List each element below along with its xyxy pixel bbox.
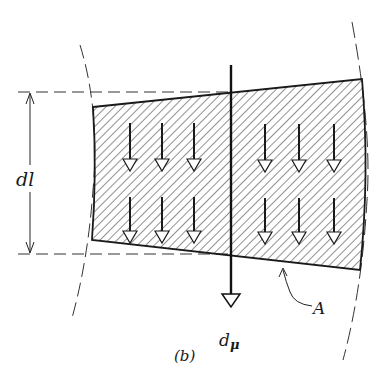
area-leader-arrow [279, 268, 312, 306]
left-dashed-arc [72, 45, 95, 318]
area-label: A [313, 300, 325, 317]
dmu-label-main: d [219, 330, 230, 350]
magnetic-slab-diagram: dl dμ A (b) [0, 0, 392, 388]
dmu-label-subscript: μ [230, 337, 240, 352]
dmu-label: dμ [219, 332, 239, 349]
diagram-canvas [0, 0, 392, 388]
dl-label: dl [16, 170, 34, 189]
figure-caption: (b) [174, 349, 195, 364]
